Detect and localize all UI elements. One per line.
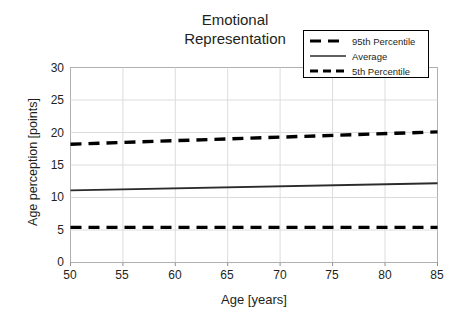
legend-swatch-dashed-small-icon <box>309 66 347 76</box>
series-line-average <box>71 183 438 190</box>
series-line-95th-percentile <box>71 132 438 144</box>
chart-figure: Emotional Representation Age perception … <box>0 0 467 334</box>
legend-item-average: Average <box>304 49 428 63</box>
legend-swatch-solid-icon <box>309 51 347 61</box>
horizontal-gridlines <box>71 100 438 230</box>
legend-item-95th-percentile: 95th Percentile <box>304 34 428 48</box>
chart-legend: 95th Percentile Average 5th Percentile <box>303 30 429 78</box>
legend-swatch-dashed-icon <box>309 36 347 46</box>
legend-label-average: Average <box>352 51 387 62</box>
axis-ticks <box>71 263 438 267</box>
legend-item-5th-percentile: 5th Percentile <box>304 64 428 78</box>
legend-label-5th-percentile: 5th Percentile <box>352 66 410 77</box>
legend-label-95th-percentile: 95th Percentile <box>352 36 415 47</box>
